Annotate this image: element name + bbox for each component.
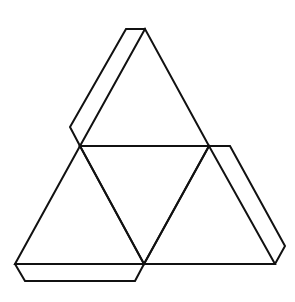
glue-tabs: [15, 29, 285, 281]
right-glue-tab: [209, 146, 285, 264]
top-triangle-face: [80, 29, 209, 146]
center-triangle-face: [80, 146, 209, 264]
bottom-glue-tab: [15, 264, 144, 281]
faces: [15, 29, 275, 264]
tetrahedron-net-diagram: [0, 0, 295, 302]
top-left-glue-tab: [70, 29, 145, 146]
right-triangle-face: [144, 146, 275, 264]
left-triangle-face: [15, 146, 144, 264]
